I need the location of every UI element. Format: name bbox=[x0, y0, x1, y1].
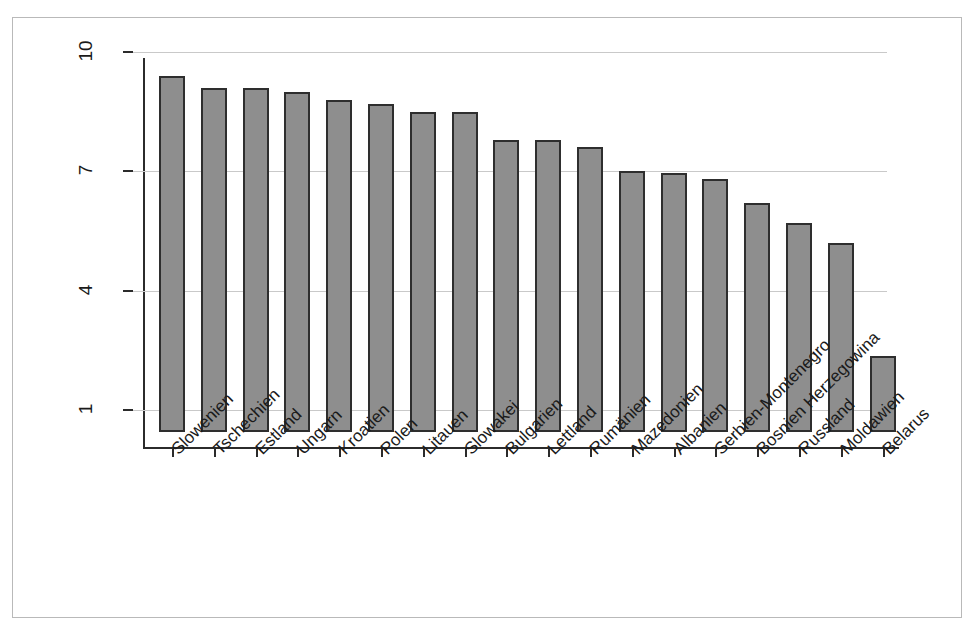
bar bbox=[326, 100, 352, 432]
bar bbox=[284, 92, 310, 432]
bar bbox=[243, 88, 269, 432]
y-tick-label-4: 4 bbox=[75, 270, 97, 310]
y-tick-label-10: 10 bbox=[75, 31, 97, 71]
y-tick-label-1: 1 bbox=[75, 389, 97, 429]
figure-container: 14710 SlowenienTschechienEstlandUngarnKr… bbox=[0, 0, 978, 631]
bar bbox=[201, 88, 227, 432]
y-tick-label-7: 7 bbox=[75, 150, 97, 190]
bar bbox=[535, 140, 561, 432]
y-tick-mark-10 bbox=[123, 51, 133, 53]
bar bbox=[493, 140, 519, 432]
bar bbox=[577, 147, 603, 432]
gridline-y-10 bbox=[132, 52, 887, 53]
y-tick-mark-1 bbox=[123, 409, 133, 411]
figure-frame: 14710 SlowenienTschechienEstlandUngarnKr… bbox=[12, 17, 962, 618]
y-axis-spine bbox=[143, 58, 145, 449]
bar bbox=[159, 76, 185, 432]
bar bbox=[452, 112, 478, 432]
bar bbox=[410, 112, 436, 432]
bar bbox=[368, 104, 394, 432]
y-tick-mark-4 bbox=[123, 290, 133, 292]
y-tick-mark-7 bbox=[123, 170, 133, 172]
